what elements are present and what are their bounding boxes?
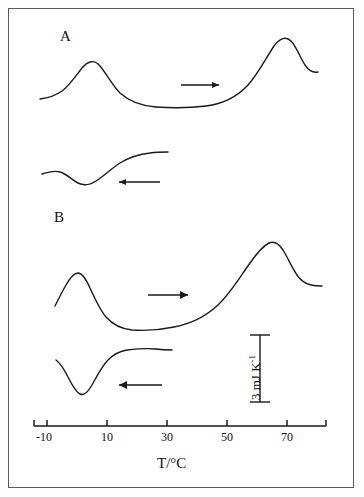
arrow-b-cooling-left <box>119 381 162 389</box>
scale-bar-label: 3 mJ K-1 <box>247 355 264 400</box>
figure-container: A B -10 10 30 50 70 T/°C 3 mJ K-1 <box>0 0 364 497</box>
scale-bar-exponent: -1 <box>247 355 257 363</box>
scale-bar-value: 3 mJ K <box>248 362 263 400</box>
arrow-a-cooling-left <box>119 179 160 185</box>
x-axis-title: T/°C <box>157 455 186 472</box>
x-tick-label-0: -10 <box>36 430 52 445</box>
dsc-thermogram-plot <box>0 0 364 497</box>
trace-b-heating <box>55 242 322 330</box>
x-axis <box>34 420 326 426</box>
x-tick-label-2: 30 <box>161 430 173 445</box>
arrow-a-heating-right <box>181 82 219 88</box>
trace-b-cooling <box>56 349 172 395</box>
panel-label-a: A <box>60 28 71 45</box>
arrow-b-heating-right <box>148 291 188 299</box>
trace-a-heating <box>40 38 318 107</box>
panel-label-b: B <box>54 209 64 226</box>
x-tick-label-3: 50 <box>221 430 233 445</box>
trace-a-cooling <box>42 152 168 185</box>
x-tick-label-1: 10 <box>101 430 113 445</box>
x-tick-label-4: 70 <box>281 430 293 445</box>
